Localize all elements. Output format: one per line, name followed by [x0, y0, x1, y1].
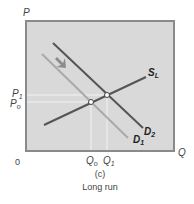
long-run-supply-demand-diagram: P Q 0 P1 Po Qo Q1 SL D2 D1 (c) Long run	[0, 0, 194, 204]
caption: Long run	[82, 182, 118, 192]
y-axis-label: P	[23, 7, 30, 18]
equilibrium-point-0	[89, 100, 94, 105]
origin-label: 0	[15, 157, 20, 167]
x-axis-label: Q	[178, 147, 186, 158]
quantity-label-q0: Qo	[86, 155, 98, 167]
equilibrium-point-1	[105, 93, 110, 98]
panel-letter: (c)	[95, 169, 106, 179]
quantity-label-q1: Q1	[103, 155, 115, 167]
